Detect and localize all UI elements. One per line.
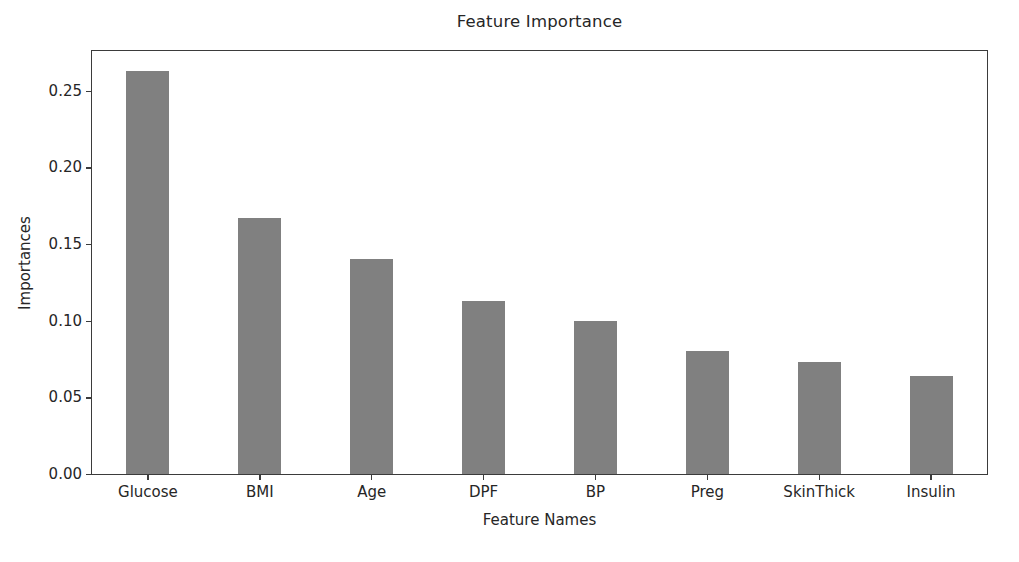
x-tick-label: SkinThick: [783, 483, 855, 501]
bar: [910, 376, 953, 474]
chart-title: Feature Importance: [91, 12, 988, 31]
y-tick-label: 0.15: [49, 235, 82, 253]
plot-area: 0.000.050.100.150.200.25 GlucoseBMIAgeDP…: [91, 50, 988, 475]
x-tick-label: BMI: [246, 483, 274, 501]
bar: [574, 321, 617, 474]
x-tick-label: Preg: [691, 483, 724, 501]
y-tick-mark: [86, 474, 92, 475]
y-axis-label: Importances: [14, 50, 36, 475]
y-tick-label: 0.10: [49, 312, 82, 330]
bar: [798, 362, 841, 474]
y-axis-label-text: Importances: [16, 216, 34, 310]
bar: [462, 301, 505, 474]
x-tick-mark: [371, 474, 372, 480]
x-tick-mark: [483, 474, 484, 480]
bar: [686, 351, 729, 474]
x-tick-mark: [819, 474, 820, 480]
x-tick-label: Insulin: [907, 483, 956, 501]
figure-canvas: Feature Importance Importances 0.000.050…: [0, 0, 1019, 562]
y-tick-label: 0.05: [49, 388, 82, 406]
x-tick-mark: [707, 474, 708, 480]
x-tick-label: DPF: [469, 483, 498, 501]
x-tick-mark: [259, 474, 260, 480]
x-tick-label: Age: [357, 483, 386, 501]
x-tick-mark: [930, 474, 931, 480]
x-tick-mark: [147, 474, 148, 480]
y-tick-label: 0.00: [49, 465, 82, 483]
bar: [350, 259, 393, 474]
bars-layer: [92, 51, 987, 474]
x-axis-label: Feature Names: [91, 511, 988, 529]
bar: [238, 218, 281, 474]
x-tick-label: Glucose: [118, 483, 178, 501]
x-tick-label: BP: [586, 483, 605, 501]
y-tick-label: 0.20: [49, 158, 82, 176]
x-tick-mark: [595, 474, 596, 480]
y-tick-label: 0.25: [49, 82, 82, 100]
bar: [126, 71, 169, 474]
